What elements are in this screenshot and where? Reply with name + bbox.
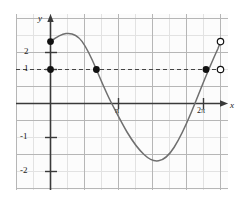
y-axis-label: y [38,13,42,23]
tick-label-2: 2 [24,46,29,56]
axis-arrows [47,14,228,107]
marker-filled-left-top [47,38,54,45]
x-axis-arrow [220,100,228,106]
chart-svg [16,14,228,190]
marker-filled-descending [93,66,100,73]
marker-filled-ascending [203,66,210,73]
marker-open-right-top [217,38,223,44]
marker-open-right-y1 [217,66,223,72]
marker-filled-y-intercept [47,66,54,73]
x-axis-label: x [230,100,234,110]
tick-label-neg1: -1 [20,131,28,141]
tick-label-2pi: 2π [197,106,205,115]
chart-figure: y x π 2π 2 1 -1 -2 [0,0,241,205]
tick-label-pi: π [115,106,119,115]
tick-marks [45,53,204,172]
tick-label-neg2: -2 [20,165,28,175]
plot-area [16,14,228,190]
tick-label-1: 1 [24,63,29,73]
